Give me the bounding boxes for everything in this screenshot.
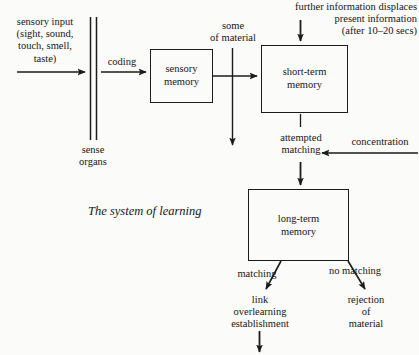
label-sense-organs: sense organs (62, 144, 124, 168)
label-coding: coding (99, 56, 145, 68)
label-no-matching: no matching (315, 265, 395, 277)
label-sensory-input: sensory input (sight, sound, touch, smel… (2, 16, 88, 65)
diagram-canvas: sensory memory short-term memory long-te… (0, 0, 419, 355)
label-attempted-matching: attempted matching (264, 132, 338, 156)
box-short-term-memory-label: short-term memory (261, 66, 348, 91)
box-long-term-memory-label: long-term memory (248, 213, 349, 238)
figure-caption: The system of learning (88, 204, 202, 219)
box-sensory-memory-label: sensory memory (150, 63, 213, 88)
label-rejection-of-material: rejection of material (330, 294, 402, 331)
label-further-information: further information displaces present in… (243, 1, 417, 38)
label-matching: matching (221, 268, 293, 280)
label-concentration: concentration (341, 136, 419, 148)
label-link-overlearning-establishment: link overlearning establishment (208, 294, 312, 331)
